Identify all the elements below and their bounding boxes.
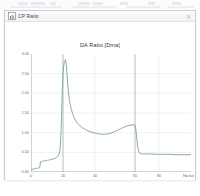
backdrop-ghost-underline (72, 6, 116, 8)
window-controls (185, 13, 193, 20)
x-axis-unit-label: No kw (183, 174, 194, 178)
window-title: CP Ratio (18, 13, 185, 19)
data-series-line (31, 60, 191, 170)
backdrop-ghost-bar (93, 2, 103, 5)
backdrop-ghost-bar (18, 2, 28, 5)
y-axis-tick-label: 0.50 (7, 150, 29, 154)
backdrop-ghost-underline (10, 6, 62, 8)
backdrop-ghost-bar (172, 2, 181, 5)
y-axis-tick-label: 2.50 (7, 72, 29, 76)
backdrop-ghost-underline (126, 6, 160, 8)
chart-window: CP Ratio DA Ratio [Dma] (4, 10, 196, 180)
horizontal-gridlines (31, 74, 191, 153)
x-axis-tick-label: 0 (30, 174, 32, 178)
backdrop-ghost-bar (78, 2, 90, 5)
backdrop-ghost-underline (168, 6, 194, 8)
x-axis-tick-label: 20 (61, 174, 65, 178)
desktop-backdrop: CP Ratio DA Ratio [Dma] (0, 0, 200, 196)
parent-app-toolbar-strip (0, 0, 200, 9)
plot-wrapper: 3.002.502.001.501.000.500.00 020406580 N… (5, 22, 197, 180)
backdrop-ghost-bar (120, 2, 128, 5)
y-axis-tick-label: 0.00 (7, 170, 29, 174)
close-icon (185, 13, 192, 20)
y-axis-tick-label: 1.00 (7, 131, 29, 135)
y-axis-tick-label: 3.00 (7, 52, 29, 56)
x-axis-tick-label: 65 (133, 174, 137, 178)
backdrop-ghost-bar (148, 2, 155, 5)
y-axis-tick-label: 1.50 (7, 111, 29, 115)
x-axis-tick-label: 80 (157, 174, 161, 178)
y-axis-tick-label: 2.00 (7, 91, 29, 95)
chart-window-body: DA Ratio [Dma] 3.002.502.001.501.000.50 (5, 22, 195, 180)
chart-window-icon (8, 12, 16, 20)
backdrop-ghost-bar (31, 2, 45, 5)
x-axis-tick-label: 40 (93, 174, 97, 178)
backdrop-ghost-bar (50, 2, 56, 5)
window-titlebar[interactable]: CP Ratio (5, 11, 195, 22)
plot-svg (31, 54, 191, 172)
plot-area[interactable] (31, 54, 191, 172)
close-button[interactable] (185, 13, 192, 20)
